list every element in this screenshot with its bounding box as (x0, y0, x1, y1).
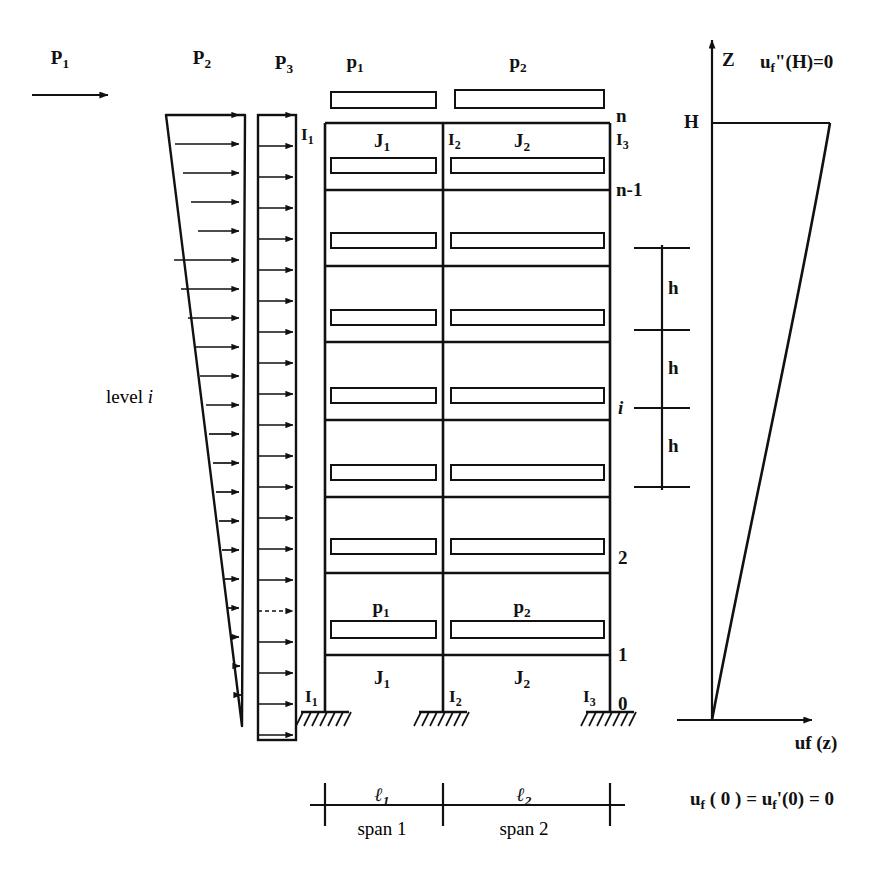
support-3 (581, 712, 636, 726)
storey-height-label-2: h (668, 358, 679, 377)
beam-J1-bottom-label: J1 (374, 668, 390, 690)
span1-length-label: ℓ1 (375, 785, 390, 807)
p3-uniform-load (258, 115, 296, 740)
cantilever-deflection-plot (677, 40, 830, 720)
boundary-condition-bottom: uf ( 0 ) = uf'(0) = 0 (690, 789, 834, 811)
structural-frame-diagram: P1 P2 P3 level i p1 p2 I1 I2 I3 J1 J2 n … (0, 0, 880, 871)
p2-load-label: P2 (193, 48, 211, 70)
column-I1-top-label: I1 (301, 126, 314, 146)
span2-length-label: ℓ2 (517, 785, 532, 807)
column-I3-top-label: I3 (616, 131, 629, 151)
beam-J2-bottom-label: J2 (514, 668, 530, 690)
level-i-note: level i (106, 386, 153, 408)
storey-height-label-1: h (668, 278, 679, 297)
p3-load-label: P3 (275, 53, 293, 75)
beam-J1-top-label: J1 (374, 131, 390, 153)
level-label-n: n (616, 106, 627, 125)
bottom-distributed-load-p2-label: p2 (513, 597, 530, 619)
frame-structure (325, 123, 610, 712)
level-label-2: 2 (618, 548, 628, 567)
p1-load-label: P1 (51, 48, 69, 70)
fixed-supports (296, 712, 636, 726)
support-2 (414, 712, 469, 726)
height-marker-label: H (684, 112, 699, 131)
column-I1-bottom-label: I1 (305, 688, 318, 708)
support-1 (296, 712, 351, 726)
column-I3-bottom-label: I3 (583, 688, 596, 708)
column-I2-top-label: I2 (448, 131, 461, 151)
beam-load-bars (331, 90, 604, 638)
level-label-0: 0 (618, 694, 628, 713)
storey-height-ladder (634, 245, 690, 490)
p2-triangular-load (166, 115, 245, 726)
diagram-canvas (0, 0, 880, 871)
boundary-condition-top: uf"(H)=0 (760, 52, 833, 74)
z-axis-label: Z (722, 50, 735, 69)
span1-name-label: span 1 (357, 818, 406, 840)
beam-J2-top-label: J2 (514, 131, 530, 153)
bottom-distributed-load-p1-label: p1 (372, 597, 389, 619)
storey-height-label-3: h (668, 436, 679, 455)
top-distributed-load-p1-label: p1 (346, 52, 363, 74)
uf-axis-label: uf (z) (795, 733, 838, 752)
column-I2-bottom-label: I2 (449, 688, 462, 708)
top-distributed-load-p2-label: p2 (509, 52, 526, 74)
span2-name-label: span 2 (499, 818, 548, 840)
level-label-i: i (618, 398, 623, 417)
level-label-1: 1 (618, 645, 628, 664)
level-label-n-minus-1: n-1 (616, 180, 642, 199)
